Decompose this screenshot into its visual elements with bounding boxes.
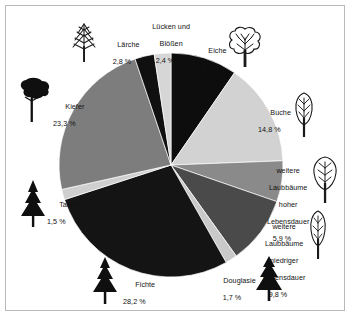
laub-hoch-line2: Laubbäume (269, 183, 307, 192)
pine-tree-solid-icon (14, 76, 54, 124)
laerche-name: Lärche (117, 40, 139, 49)
laub-nied-line1: weitere (272, 222, 296, 231)
broadleaf-tree-outline-icon (309, 154, 341, 204)
deciduous-tree-outline-icon (225, 24, 265, 68)
buche-value: 14,8 % (258, 126, 292, 135)
poplar-tree-outline-icon (305, 208, 331, 260)
slice-label-eiche: Eiche 9,6 % (196, 38, 228, 90)
slice-label-fichte: Fichte 28,2 % (123, 272, 163, 318)
luecken-line1: Lücken und (152, 22, 190, 31)
spruce-tree-solid-icon (90, 255, 120, 305)
laub-nied-line2: Laubbäume (265, 239, 303, 248)
buche-name: Buche (270, 108, 291, 117)
beech-tree-outline-icon (289, 90, 319, 138)
slice-label-buche: Buche 14,8 % (258, 100, 292, 152)
figure-frame: Lücken und Blößen 2,4 % Lärche 2,8 % (5, 5, 345, 311)
laub-hoch-line1: weitere (276, 166, 300, 175)
eiche-name: Eiche (208, 46, 226, 55)
luecken-value: 2,4 % (138, 57, 192, 66)
laerche-value: 2,8 % (105, 58, 139, 67)
kiefer-value: 23,3 % (53, 120, 91, 129)
slice-label-tanne: Tanne 1,5 % (47, 192, 81, 244)
eiche-value: 9,6 % (196, 64, 228, 73)
slice-label-douglasie: Douglasie 1,7 % (211, 268, 253, 318)
slice-label-kiefer: Kiefer 23,3 % (53, 94, 91, 146)
slice-label-laerche: Lärche 2,8 % (105, 32, 139, 84)
fichte-value: 28,2 % (123, 298, 163, 307)
pie-chart-plot: Lücken und Blößen 2,4 % Lärche 2,8 % (6, 6, 346, 312)
douglasie-value: 1,7 % (211, 294, 253, 303)
tanne-name: Tanne (59, 200, 79, 209)
douglasie-name: Douglasie (223, 276, 255, 285)
luecken-line2: Blößen (160, 39, 183, 48)
larch-tree-outline-icon (71, 19, 103, 63)
laub-hoch-line3: hoher (279, 200, 298, 209)
fichte-name: Fichte (135, 280, 155, 289)
fir-tree-solid-icon (18, 178, 48, 228)
tanne-value: 1,5 % (47, 218, 81, 227)
conifer-tree-solid-icon (253, 254, 285, 302)
kiefer-name: Kiefer (65, 102, 84, 111)
slice-label-luecken-und-bloessen: Lücken und Blößen 2,4 % (138, 14, 192, 83)
